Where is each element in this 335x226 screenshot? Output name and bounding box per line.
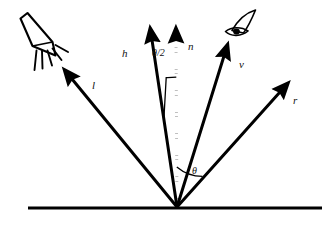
eye-pupil: [233, 29, 240, 35]
vector-label-n: n: [188, 41, 194, 52]
vector-label-h: h: [122, 48, 128, 59]
angle-arc-theta-half: [164, 77, 177, 120]
diagram-canvas: l h n v r θ/2 θ: [0, 0, 335, 226]
vector-label-r: r: [293, 95, 297, 106]
flashlight-icon: [21, 13, 69, 70]
vector-r: [177, 92, 280, 207]
vector-label-l: l: [92, 80, 95, 91]
light-ray: [56, 45, 69, 52]
eye-icon: [226, 10, 256, 35]
vector-v: [177, 56, 224, 207]
vector-n: [176, 40, 177, 207]
light-ray: [42, 51, 43, 69]
vector-label-v: v: [239, 59, 244, 70]
angle-label-theta-half: θ/2: [152, 48, 165, 58]
angle-label-theta: θ: [192, 166, 197, 176]
vector-diagram-svg: [0, 0, 335, 226]
light-ray: [35, 51, 37, 71]
